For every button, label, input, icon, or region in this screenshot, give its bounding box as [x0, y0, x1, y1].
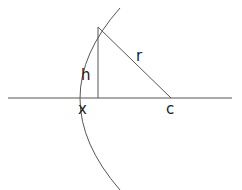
geometry-diagram: h r x c [0, 0, 242, 190]
label-r: r [136, 47, 143, 65]
radius-segment [98, 27, 171, 98]
label-x: x [78, 100, 87, 118]
label-c: c [166, 100, 174, 118]
label-h: h [81, 66, 91, 84]
circular-arc [80, 8, 120, 190]
